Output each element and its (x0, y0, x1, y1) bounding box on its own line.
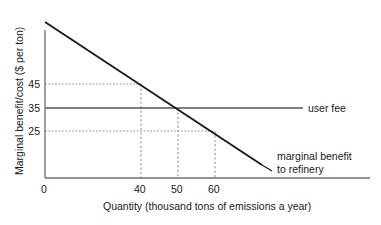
x-tick-label-60: 60 (208, 184, 220, 195)
y-axis-title: Marginal benefit/cost ($ per ton) (14, 27, 25, 175)
x-tick-label-50: 50 (171, 184, 183, 195)
y-tick-label-45: 45 (24, 79, 40, 90)
x-axis-title: Quantity (thousand tons of emissions a y… (103, 201, 311, 212)
x-tick-label-40: 40 (134, 184, 146, 195)
marginal-benefit-label-line1: marginal benefit (277, 150, 352, 162)
marginal-benefit-leader (262, 165, 272, 171)
marginal-benefit-label: marginal benefit to refinery (277, 150, 352, 176)
marginal-benefit-line (45, 22, 262, 165)
user-fee-label: user fee (308, 102, 346, 115)
y-tick-label-35: 35 (24, 103, 40, 114)
x-tick-label-0: 0 (41, 184, 47, 195)
y-tick-label-25: 25 (24, 126, 40, 137)
chart-container: 45 35 25 0 40 50 60 Quantity (thousand t… (0, 0, 381, 225)
marginal-benefit-label-line2: to refinery (277, 163, 324, 175)
